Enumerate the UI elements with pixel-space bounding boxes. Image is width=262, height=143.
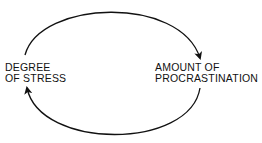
node-label-line: PROCRASTINATION [155, 73, 258, 84]
node-degree-of-stress: DEGREE OF STRESS [5, 62, 66, 84]
arrow-procrastination-to-stress [27, 88, 200, 135]
node-label-line: OF STRESS [5, 73, 66, 84]
node-amount-of-procrastination: AMOUNT OF PROCRASTINATION [155, 62, 258, 84]
arrow-stress-to-procrastination [25, 12, 200, 58]
